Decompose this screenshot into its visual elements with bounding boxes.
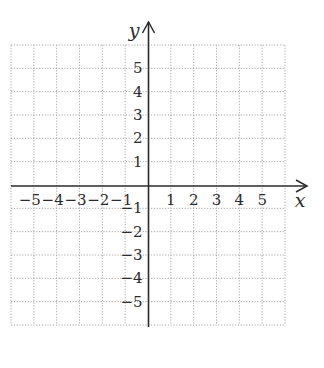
x-tick-label: 3 (212, 191, 222, 209)
y-tick-label: −5 (120, 293, 142, 311)
y-tick-label: −2 (120, 223, 142, 241)
x-tick-labels: −5−4−3−2−112345 (19, 191, 267, 209)
x-tick-label: 4 (235, 191, 245, 209)
x-tick-label: −2 (87, 191, 109, 209)
coordinate-plane: −5−4−3−2−112345 54321−1−2−3−4−5 x y (0, 0, 324, 368)
y-tick-label: 5 (133, 59, 143, 77)
x-tick-label: −5 (19, 191, 41, 209)
x-axis-label: x (295, 189, 306, 211)
y-axis-label: y (128, 19, 140, 41)
y-tick-label: −3 (120, 246, 142, 264)
y-tick-label: 2 (133, 129, 143, 147)
y-tick-label: 4 (133, 83, 143, 101)
x-tick-label: 1 (166, 191, 176, 209)
x-tick-label: −3 (64, 191, 86, 209)
x-tick-label: 5 (257, 191, 267, 209)
y-tick-label: −4 (120, 269, 142, 287)
y-tick-label: 3 (133, 106, 143, 124)
y-tick-label: −1 (120, 199, 142, 217)
y-tick-label: 1 (133, 153, 143, 171)
x-tick-label: 2 (189, 191, 199, 209)
y-tick-labels: 54321−1−2−3−4−5 (120, 59, 142, 310)
x-tick-label: −4 (42, 191, 64, 209)
